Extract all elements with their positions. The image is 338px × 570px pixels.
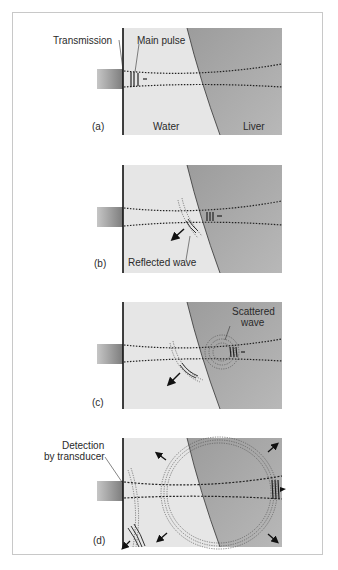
transducer bbox=[97, 207, 123, 227]
panel-label-d: (d) bbox=[93, 535, 105, 546]
label-main-pulse: Main pulse bbox=[137, 35, 186, 46]
panel-a: Transmission Main pulse Water Liver (a) bbox=[53, 28, 282, 135]
arrow-icon bbox=[280, 487, 286, 492]
label-wave: wave bbox=[240, 317, 265, 328]
transducer bbox=[97, 344, 123, 364]
label-by-transducer: by transducer bbox=[44, 451, 105, 462]
panel-d: Detection by transducer (d) bbox=[44, 437, 286, 549]
label-transmission: Transmission bbox=[53, 35, 112, 46]
ultrasound-diagram: Transmission Main pulse Water Liver (a) … bbox=[0, 0, 338, 570]
panel-c: Scattered wave (c) bbox=[92, 302, 282, 409]
panel-label-b: (b) bbox=[94, 258, 106, 269]
transducer bbox=[97, 69, 123, 89]
label-scattered: Scattered bbox=[232, 306, 275, 317]
label-reflected-wave: Reflected wave bbox=[128, 257, 197, 268]
label-water: Water bbox=[153, 121, 180, 132]
transducer bbox=[97, 481, 123, 501]
panel-label-a: (a) bbox=[92, 121, 104, 132]
label-liver: Liver bbox=[243, 121, 265, 132]
label-detection: Detection bbox=[62, 440, 104, 451]
panel-b: Reflected wave (b) bbox=[94, 165, 282, 273]
panel-label-c: (c) bbox=[92, 397, 104, 408]
